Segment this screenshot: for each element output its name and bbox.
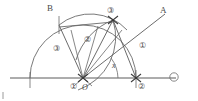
- label-ray-a: A: [160, 6, 167, 15]
- label-step-one-base: ①: [70, 83, 77, 91]
- label-angle-x: x: [112, 62, 116, 70]
- label-step-two-mid: ②: [84, 36, 91, 44]
- label-step-three: ③: [107, 7, 114, 15]
- line-end-circle-icon: [170, 73, 178, 81]
- label-step-three-left: ③: [53, 45, 60, 53]
- fan-stroke-1: [83, 26, 98, 78]
- segment-b-to-step-three: [59, 22, 113, 27]
- construction-figure: [0, 0, 198, 101]
- point-marker-step-three: [108, 16, 118, 24]
- label-step-two-base: ②: [138, 83, 145, 91]
- label-ray-b: B: [47, 4, 53, 13]
- label-origin: O: [82, 84, 88, 92]
- fan-stroke-3: [71, 30, 83, 78]
- label-step-one-right: ①: [139, 42, 146, 50]
